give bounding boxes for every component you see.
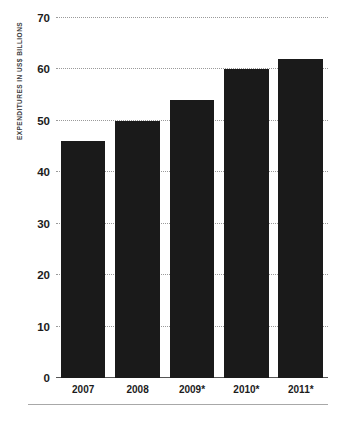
bar: [115, 121, 160, 378]
bars-group: [56, 18, 328, 378]
plot-area: 010203040506070: [56, 18, 328, 378]
bar-slot: [274, 18, 328, 378]
bar: [61, 141, 106, 378]
bar-chart: EXPENDITURES IN US$ BILLIONS 01020304050…: [0, 0, 340, 425]
x-tick-label: 2010*: [233, 384, 259, 395]
bar: [278, 59, 323, 378]
y-tick-label-70: 70: [37, 12, 50, 24]
y-tick-label-50: 50: [37, 115, 50, 127]
y-tick-label-0: 0: [44, 372, 50, 384]
bar-slot: [219, 18, 273, 378]
y-tick-label-60: 60: [37, 63, 50, 75]
x-tick-label: 2007: [72, 384, 94, 395]
y-tick-label-40: 40: [37, 166, 50, 178]
x-tick-label: 2008: [126, 384, 148, 395]
x-tick-label: 2009*: [179, 384, 205, 395]
y-tick-label-20: 20: [37, 269, 50, 281]
bottom-divider: [28, 404, 328, 405]
bar: [170, 100, 215, 378]
y-axis-title: EXPENDITURES IN US$ BILLIONS: [16, 0, 23, 140]
y-tick-label-30: 30: [37, 218, 50, 230]
y-tick-label-10: 10: [37, 321, 50, 333]
bar-slot: [110, 18, 164, 378]
x-tick-label: 2011*: [288, 384, 314, 395]
bar-slot: [56, 18, 110, 378]
bar-slot: [165, 18, 219, 378]
bar: [224, 69, 269, 378]
